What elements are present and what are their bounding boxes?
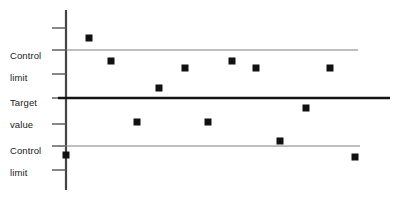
lower-control-limit-label-line1: Control bbox=[10, 145, 41, 156]
data-point-6 bbox=[182, 65, 189, 72]
data-point-7 bbox=[205, 119, 212, 126]
data-point-11 bbox=[303, 105, 310, 112]
upper-control-limit-label-line2: limit bbox=[10, 72, 41, 83]
chart-plot-area bbox=[0, 0, 394, 203]
data-point-1 bbox=[63, 152, 70, 159]
target-value-label-line2: value bbox=[10, 119, 37, 130]
target-value-label-line1: Target bbox=[10, 97, 37, 108]
upper-control-limit-label-line1: Control bbox=[10, 50, 41, 61]
data-point-10 bbox=[277, 138, 284, 145]
data-point-8 bbox=[229, 58, 236, 65]
data-point-9 bbox=[253, 65, 260, 72]
data-point-13 bbox=[352, 154, 359, 161]
data-point-2 bbox=[86, 35, 93, 42]
data-point-12 bbox=[327, 65, 334, 72]
target-value-label: Target value bbox=[10, 86, 37, 141]
lower-control-limit-label: Control limit bbox=[10, 134, 41, 189]
data-point-4 bbox=[134, 119, 141, 126]
data-point-5 bbox=[156, 85, 163, 92]
data-point-3 bbox=[108, 58, 115, 65]
control-chart: Control limit Target value Control limit bbox=[0, 0, 394, 203]
lower-control-limit-label-line2: limit bbox=[10, 167, 41, 178]
